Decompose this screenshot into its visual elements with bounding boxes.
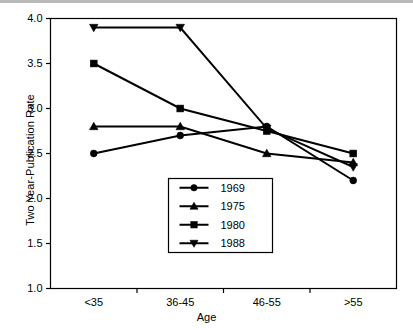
data-point-marker (177, 132, 184, 139)
y-axis-title-text: Two Year-Publication Rate (24, 94, 36, 226)
publication-rate-line-chart: Two Year-Publication Rate Age 1969197519… (0, 0, 413, 330)
y-axis-tick-label: 1.5 (9, 237, 43, 249)
chart-legend: 1969197519801988 (169, 179, 273, 253)
legend-label-1980: 1980 (221, 219, 245, 231)
data-point-marker (350, 150, 357, 157)
legend-label-1969: 1969 (221, 182, 245, 194)
y-axis-tick-label: 1.0 (9, 282, 43, 294)
x-axis-tick-label: <35 (59, 296, 129, 308)
y-axis-tick-label: 2.0 (9, 192, 43, 204)
y-axis-tick-label: 3.5 (9, 57, 43, 69)
x-axis-tick-label: >55 (318, 296, 388, 308)
data-point-marker (350, 177, 357, 184)
x-axis-title: Age (0, 311, 413, 323)
data-point-marker (177, 105, 184, 112)
y-axis-title: Two Year-Publication Rate (22, 60, 38, 260)
legend-marker-1980 (191, 222, 197, 228)
plot-area: 1969197519801988 (0, 0, 413, 330)
x-axis-tick-label: 36-45 (145, 296, 215, 308)
legend-label-1975: 1975 (221, 200, 245, 212)
y-axis-tick-label: 4.0 (9, 12, 43, 24)
legend-marker-1969 (191, 185, 197, 191)
x-axis-tick-label: 46-55 (232, 296, 302, 308)
y-axis-tick-label: 3.0 (9, 102, 43, 114)
data-point-marker (90, 150, 97, 157)
y-axis-tick-label: 2.5 (9, 147, 43, 159)
scan-artifact-bar (0, 0, 413, 3)
legend-label-1988: 1988 (221, 237, 245, 249)
data-point-marker (90, 60, 97, 67)
